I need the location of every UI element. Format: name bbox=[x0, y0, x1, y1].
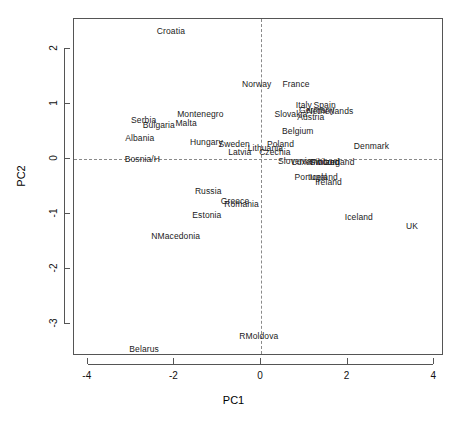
data-point-label: Belgium bbox=[282, 126, 313, 135]
data-point-label: Estonia bbox=[192, 211, 221, 220]
x-tick-mark bbox=[87, 358, 88, 364]
data-point-label: Denmark bbox=[354, 141, 389, 150]
data-point-label: Bosnia/H bbox=[125, 155, 160, 164]
x-tick-label: -4 bbox=[82, 370, 91, 381]
data-point-label: NMacedonia bbox=[151, 232, 200, 241]
data-point-label: Belarus bbox=[129, 344, 159, 353]
data-point-label: Malta bbox=[175, 119, 196, 128]
y-tick-mark bbox=[64, 158, 70, 159]
data-point-label: Russia bbox=[195, 186, 222, 195]
x-tick-label: 2 bbox=[344, 370, 350, 381]
y-tick-label: 2 bbox=[48, 41, 59, 55]
data-point-label: Latvia bbox=[228, 147, 251, 156]
data-point-label: France bbox=[283, 80, 310, 89]
data-point-label: Croatia bbox=[157, 26, 185, 35]
data-point-label: Austria bbox=[297, 113, 324, 122]
data-point-label: UK bbox=[406, 222, 418, 231]
x-tick-mark bbox=[347, 358, 348, 364]
x-tick-label: 4 bbox=[430, 370, 436, 381]
data-point-label: Norway bbox=[242, 80, 271, 89]
x-tick-label: 0 bbox=[257, 370, 263, 381]
y-tick-label: -3 bbox=[48, 316, 59, 330]
y-tick-label: 0 bbox=[48, 151, 59, 165]
plot-panel: CroatiaNorwayFranceItalySpainGermanyNeth… bbox=[73, 18, 443, 355]
x-tick-mark bbox=[433, 358, 434, 364]
x-tick-mark bbox=[260, 358, 261, 364]
y-tick-label: -2 bbox=[48, 261, 59, 275]
data-point-label: Finland bbox=[311, 157, 340, 166]
data-point-label: RMoldova bbox=[239, 332, 278, 341]
y-axis-title: PC2 bbox=[15, 165, 27, 186]
data-point-label: Ireland bbox=[315, 178, 342, 187]
y-tick-mark bbox=[64, 268, 70, 269]
y-tick-mark bbox=[64, 213, 70, 214]
x-tick-mark bbox=[173, 358, 174, 364]
y-tick-mark bbox=[64, 323, 70, 324]
x-axis-line bbox=[88, 364, 433, 365]
y-axis-line bbox=[64, 48, 65, 324]
data-point-label: Iceland bbox=[345, 212, 373, 221]
x-axis-title: PC1 bbox=[0, 394, 467, 406]
data-point-label: Bulgaria bbox=[143, 120, 175, 129]
y-tick-mark bbox=[64, 103, 70, 104]
vertical-reference-line bbox=[261, 19, 262, 354]
data-point-label: Romania bbox=[224, 200, 259, 209]
data-point-label: Albania bbox=[125, 134, 154, 143]
x-tick-label: -2 bbox=[169, 370, 178, 381]
y-tick-label: -1 bbox=[48, 206, 59, 220]
pca-scatter-plot: CroatiaNorwayFranceItalySpainGermanyNeth… bbox=[0, 0, 467, 426]
y-tick-label: 1 bbox=[48, 96, 59, 110]
y-tick-mark bbox=[64, 48, 70, 49]
